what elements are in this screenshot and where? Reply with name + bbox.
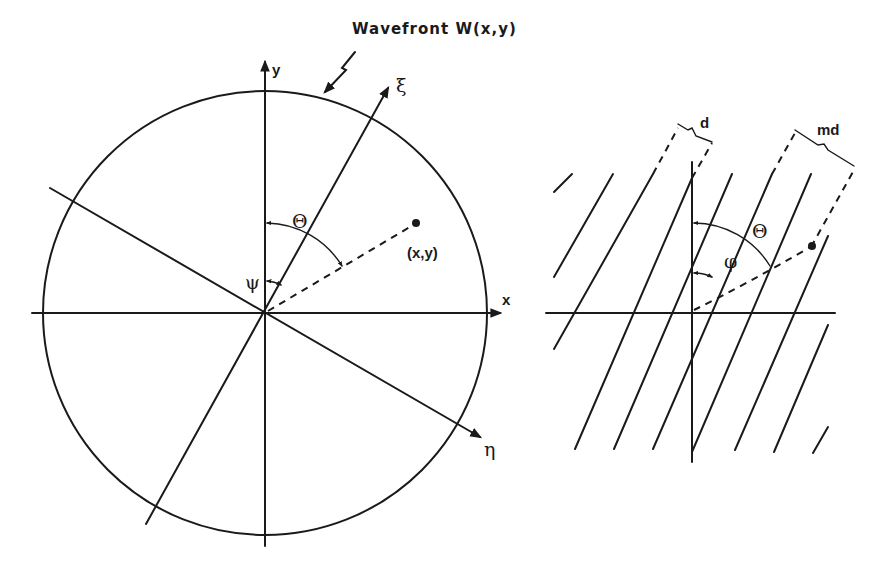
grating-line (614, 174, 732, 449)
md-right-dashline (811, 170, 854, 247)
md-label: md (817, 121, 840, 138)
d-label: d (700, 114, 709, 131)
xi-axis-label: ξ (396, 74, 406, 96)
grating-line (735, 236, 828, 450)
left-panel: y x ξ η (x,y) Θ ψ (32, 61, 511, 546)
psi-label: ψ (245, 271, 260, 293)
d-left-dashline (653, 128, 678, 174)
radius-line (268, 224, 415, 311)
grating-phi-arc (694, 273, 712, 277)
point-label: (x,y) (407, 244, 438, 261)
diagram-title: Wavefront W(x,y) (352, 20, 517, 38)
x-axis-label: x (502, 291, 511, 308)
grating-line (554, 174, 653, 349)
wavefront-pointer-arrow (325, 52, 355, 92)
point-dashline (694, 246, 812, 310)
eta-axis-label: η (484, 438, 495, 460)
grating-phi-label: φ (724, 250, 737, 272)
d-right-dashline (692, 143, 712, 178)
y-axis-label: y (272, 61, 281, 78)
xi-axis (146, 88, 388, 524)
point-marker (412, 219, 420, 227)
theta-label: Θ (292, 210, 308, 232)
wavefront-diagram: Wavefront W(x,y) y x ξ η (x,y) Θ ψ (0, 0, 883, 571)
right-panel: d md Θ φ (546, 114, 854, 462)
md-left-dashline (772, 133, 795, 174)
grating-line (554, 174, 572, 192)
grating-theta-label: Θ (752, 220, 768, 242)
grating-line (813, 427, 828, 453)
grating-point-marker (808, 242, 816, 250)
